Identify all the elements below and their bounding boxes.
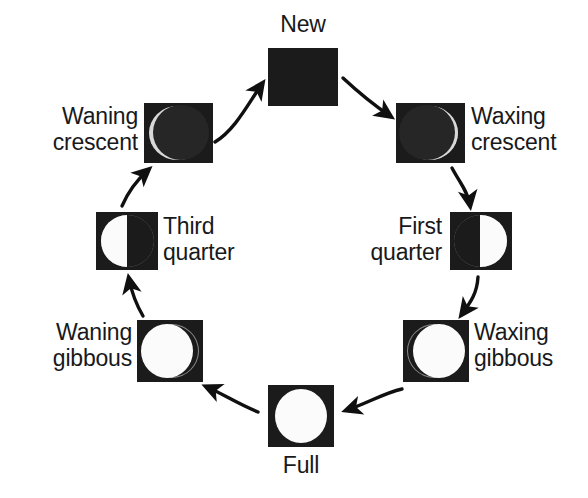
arrow-third-quarter-to-waning-crescent bbox=[122, 170, 148, 206]
phase-label-first-quarter: First quarter bbox=[336, 214, 442, 266]
phase-tile-full[interactable] bbox=[268, 385, 334, 447]
moon-shadow-mask bbox=[399, 105, 455, 160]
moon-lit-half-left bbox=[101, 215, 154, 267]
phase-tile-waxing-crescent[interactable] bbox=[396, 103, 465, 163]
moon-lit-half-right bbox=[454, 215, 507, 267]
phase-label-waning-gibbous: Waning gibbous bbox=[16, 320, 132, 372]
arrow-first-quarter-to-waxing-gibbous bbox=[462, 277, 478, 314]
phase-tile-new[interactable] bbox=[268, 48, 338, 106]
phase-label-full: Full bbox=[258, 453, 344, 479]
moon-shadow-mask bbox=[153, 105, 209, 160]
phase-tile-third-quarter[interactable] bbox=[96, 212, 158, 270]
phase-tile-waning-crescent[interactable] bbox=[144, 103, 213, 163]
moon-lit-gibbous bbox=[413, 324, 465, 378]
phase-tile-first-quarter[interactable] bbox=[450, 212, 512, 270]
phase-label-waning-crescent: Waning crescent bbox=[22, 104, 138, 156]
phase-tile-waxing-gibbous[interactable] bbox=[403, 320, 469, 382]
phase-label-waxing-gibbous: Waxing gibbous bbox=[474, 320, 584, 372]
phase-label-new: New bbox=[258, 12, 348, 38]
arrow-full-to-waning-gibbous bbox=[207, 387, 258, 412]
arrow-new-to-waxing-crescent bbox=[343, 78, 390, 116]
arrow-waning-crescent-to-new bbox=[215, 84, 262, 142]
moon-lit-gibbous bbox=[141, 324, 193, 378]
moon-lit-full bbox=[275, 389, 327, 443]
arrow-waxing-gibbous-to-full bbox=[347, 389, 402, 410]
arrow-waxing-crescent-to-first-quarter bbox=[452, 168, 470, 205]
phase-label-third-quarter: Third quarter bbox=[163, 214, 273, 266]
moon-phases-diagram: New Waxing crescent First quarter Waxing… bbox=[0, 0, 588, 498]
phase-label-waxing-crescent: Waxing crescent bbox=[471, 104, 583, 156]
arrow-waning-gibbous-to-third-quarter bbox=[129, 279, 143, 316]
phase-tile-waning-gibbous[interactable] bbox=[137, 320, 203, 382]
